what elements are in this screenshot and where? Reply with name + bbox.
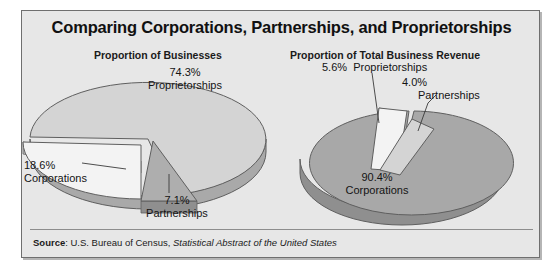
label-right-corporations-pct: 90.4% <box>361 171 392 183</box>
label-right-corporations: 90.4% Corporations <box>322 171 432 196</box>
label-right-corporations-name: Corporations <box>346 184 409 196</box>
label-right-proprietorships: 5.6% Proprietorships <box>322 61 482 74</box>
label-right-partnerships-pct: 4.0% <box>402 76 462 89</box>
source-note: Source: U.S. Bureau of Census, Statistic… <box>33 237 337 248</box>
label-right-partnerships-name: Partnerships <box>418 89 518 102</box>
pie-chart-proportion-of-total-business-revenue <box>22 11 541 259</box>
label-right-proprietorships-pct: 5.6% <box>322 61 347 73</box>
source-publication: Statistical Abstract of the United State… <box>173 237 337 248</box>
label-right-proprietorships-name: Proprietorships <box>353 61 427 73</box>
source-agency: U.S. Bureau of Census, <box>71 237 173 248</box>
source-separator <box>30 229 533 230</box>
figure-panel: Comparing Corporations, Partnerships, an… <box>21 10 540 258</box>
source-label: Source <box>33 237 65 248</box>
pie-right-slices <box>310 108 514 215</box>
